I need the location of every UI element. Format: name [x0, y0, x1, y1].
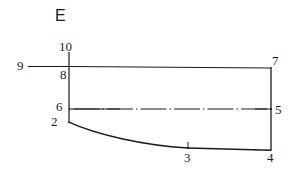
point-label-7: 7	[272, 54, 279, 67]
point-label-6: 6	[56, 100, 63, 113]
figure-canvas: E 10 9 8 7 6 5 2 3 4	[0, 0, 291, 175]
point-label-2: 2	[51, 115, 58, 128]
point-label-10: 10	[59, 40, 72, 53]
point-label-3: 3	[184, 151, 191, 164]
point-label-9: 9	[17, 59, 24, 72]
section-label-e: E	[55, 8, 66, 24]
top-deck-line	[69, 67, 272, 69]
bottom-hull-flat	[188, 148, 271, 150]
point-label-4: 4	[267, 151, 274, 164]
point-label-8: 8	[60, 68, 67, 81]
bottom-hull-curve	[69, 122, 188, 148]
point-label-5: 5	[275, 103, 282, 116]
hull-section-drawing	[0, 0, 291, 175]
